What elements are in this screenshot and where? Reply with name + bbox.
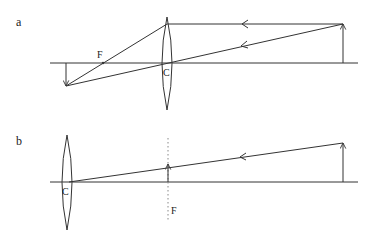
optics-diagram: a F C b F C xyxy=(0,0,374,236)
focal-point-a xyxy=(102,62,104,64)
center-label-a: C xyxy=(163,67,170,78)
central-ray-a xyxy=(66,24,343,86)
panel-b: b F C xyxy=(16,134,358,230)
focal-label-a: F xyxy=(97,49,103,60)
focal-label-b: F xyxy=(171,205,177,216)
central-ray-b xyxy=(69,143,343,182)
center-label-b: C xyxy=(62,186,69,197)
panel-b-label: b xyxy=(16,134,22,148)
panel-a: a F C xyxy=(16,15,358,110)
panel-a-label: a xyxy=(16,15,22,29)
focal-ray-a xyxy=(66,24,167,86)
